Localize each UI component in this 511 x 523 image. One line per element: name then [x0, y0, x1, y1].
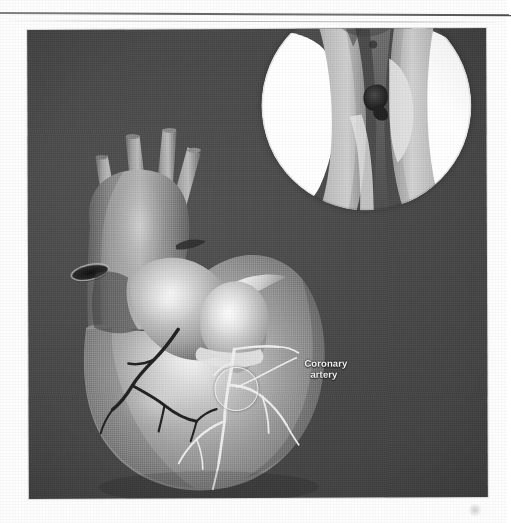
coronary-artery-leader-line: [234, 351, 314, 391]
top-horizontal-rule: [0, 12, 511, 16]
figure-panel: Coronary artery: [27, 28, 488, 499]
coronary-artery-label-line2: artery: [304, 369, 347, 380]
scan-artifact-smudge: [468, 503, 482, 517]
coronary-artery-label-line1: Coronary: [304, 358, 347, 369]
top-rule-ghost: [6, 20, 506, 23]
coronary-artery-label: Coronary artery: [304, 358, 347, 380]
